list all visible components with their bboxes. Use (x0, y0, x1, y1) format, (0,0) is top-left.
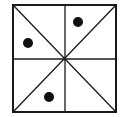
divider-lines (13, 5, 116, 112)
puzzle-diagram (0, 0, 120, 117)
dot-top-right-upper (73, 17, 83, 27)
dot-bottom-left-lower (44, 92, 54, 102)
dot-top-left-lower (23, 38, 33, 48)
